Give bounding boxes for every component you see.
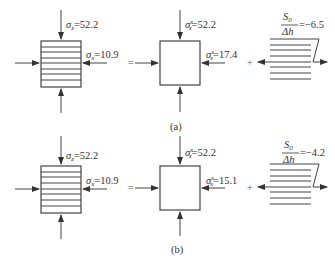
sigma-z-label: σz=52.2: [66, 150, 98, 163]
panel-a: σz=52.2 σx=10.9 = σsz=52.2 σsx=17.4 +: [15, 10, 327, 133]
interlayer-slip-element: [258, 164, 327, 204]
plus-sign: +: [247, 182, 253, 193]
sigma-z-label: σz=52.2: [66, 19, 98, 32]
equals-sign: =: [128, 57, 134, 68]
svg-text:S0: S0: [283, 11, 292, 24]
equals-sign: =: [128, 182, 134, 193]
panel-b: σz=52.2 σx=10.9 = σsz=52.2 σsx=15.1 + S0: [15, 136, 327, 256]
svg-text:S0: S0: [284, 139, 293, 152]
sigma-z-s-label: σsz=52.2: [185, 146, 216, 160]
slip-ratio-label: S0 Δh =−4.2: [282, 139, 325, 165]
plus-sign: +: [247, 57, 253, 68]
svg-text:Δh: Δh: [281, 26, 293, 37]
sigma-z-s-label: σsz=52.2: [185, 18, 216, 32]
sigma-x-s-label: σsx=15.1: [206, 174, 237, 188]
caption-b: (b): [171, 244, 184, 256]
interlayer-slip-element: [258, 39, 327, 79]
slip-ratio-label: S0 Δh =−6.5: [281, 11, 324, 37]
svg-text:Δh: Δh: [282, 154, 294, 165]
svg-text:=−6.5: =−6.5: [299, 19, 324, 30]
sigma-x-s-label: σsx=17.4: [206, 48, 238, 62]
stress-decomposition-diagram: σz=52.2 σx=10.9 = σsz=52.2 σsx=17.4 +: [0, 0, 335, 262]
sigma-x-label: σx=10.9: [86, 49, 119, 62]
svg-text:=−4.2: =−4.2: [300, 147, 325, 158]
caption-a: (a): [170, 121, 182, 133]
sigma-x-label: σx=10.9: [86, 175, 119, 188]
